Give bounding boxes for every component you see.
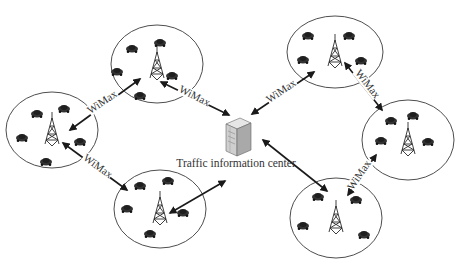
car-icon bbox=[40, 158, 52, 166]
car-icon bbox=[297, 56, 309, 64]
car-icon bbox=[375, 137, 387, 145]
cell-right bbox=[362, 100, 454, 180]
car-icon bbox=[297, 222, 309, 230]
tower-icon bbox=[150, 46, 164, 80]
cell-bottom-right bbox=[290, 178, 382, 258]
car-icon bbox=[422, 138, 434, 146]
link-center-cell-top-right: WiMax bbox=[252, 72, 314, 114]
car-icon bbox=[134, 182, 146, 190]
car-icon bbox=[302, 32, 314, 40]
car-icon bbox=[407, 112, 419, 120]
car-icon bbox=[58, 105, 70, 113]
car-icon bbox=[154, 39, 166, 47]
link-cell-left-cell-bottom-left: WiMax bbox=[63, 143, 127, 190]
center-label: Traffic information center bbox=[176, 157, 296, 169]
car-icon bbox=[166, 72, 178, 80]
car-icon bbox=[111, 68, 123, 76]
car-icon bbox=[144, 230, 156, 238]
car-icon bbox=[121, 205, 133, 213]
car-icon bbox=[312, 193, 324, 201]
car-icon bbox=[350, 196, 362, 204]
car-icon bbox=[385, 117, 397, 125]
link-cell-bottom-right-cell-right: WiMax bbox=[344, 155, 376, 195]
car-icon bbox=[74, 138, 86, 146]
tower-icon bbox=[329, 200, 343, 234]
tower-icon bbox=[45, 112, 59, 146]
car-icon bbox=[343, 32, 355, 40]
car-icon bbox=[31, 110, 43, 118]
wimax-label: WiMax bbox=[344, 157, 373, 192]
car-icon bbox=[126, 45, 138, 53]
tower-icon bbox=[153, 191, 167, 225]
car-icon bbox=[162, 177, 174, 185]
server-icon bbox=[226, 118, 251, 156]
car-icon bbox=[358, 231, 370, 239]
links-layer: WiMaxWiMaxWiMaxWiMaxWiMaxWiMax bbox=[63, 63, 383, 213]
wimax-label: WiMax bbox=[264, 76, 299, 105]
cell-boundary bbox=[290, 178, 382, 258]
car-icon bbox=[134, 92, 146, 100]
link-cell-left-cell-top-left: WiMax bbox=[70, 79, 140, 130]
car-icon bbox=[16, 134, 28, 142]
wimax-label: WiMax bbox=[85, 87, 120, 116]
cell-bottom-left bbox=[114, 170, 206, 248]
tower-icon bbox=[401, 122, 415, 156]
network-diagram: WiMaxWiMaxWiMaxWiMaxWiMaxWiMax Traffic i… bbox=[0, 0, 467, 270]
wimax-label: WiMax bbox=[81, 151, 115, 180]
car-icon bbox=[355, 57, 367, 65]
tower-icon bbox=[328, 34, 342, 68]
car-icon bbox=[177, 209, 189, 217]
link-cell-top-left-center: WiMax bbox=[161, 82, 229, 115]
